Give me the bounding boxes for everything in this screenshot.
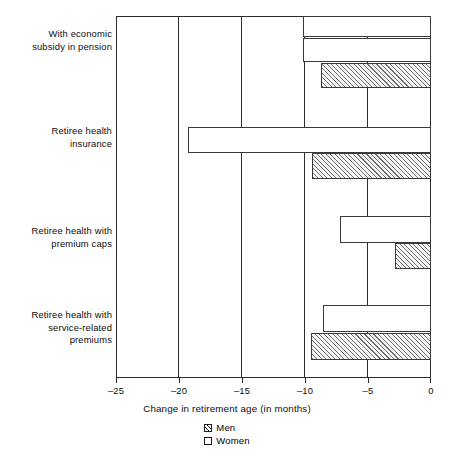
tick-label-minus20: –20 (159, 385, 199, 396)
bar-group0-women (303, 38, 431, 62)
bar-group3-women (323, 305, 431, 332)
tick-label-minus25: –25 (96, 385, 136, 396)
bar-group2-men (395, 243, 431, 269)
category-label-2: Retiree health with premium caps (2, 225, 112, 250)
legend-item-men: Men (204, 422, 249, 435)
bar-group1-men (312, 153, 431, 179)
bar-group1-women (188, 127, 431, 153)
gridline-minus15 (241, 16, 242, 378)
bar-chart: With economic subsidy in pension Retiree… (0, 0, 454, 468)
gridline-minus10 (304, 16, 305, 378)
legend: Men Women (0, 422, 454, 449)
legend-label-women: Women (216, 435, 249, 448)
tick-minus10 (305, 378, 306, 383)
tick-minus15 (242, 378, 243, 383)
bar-group0-men (321, 63, 431, 88)
tick-minus5 (368, 378, 369, 383)
legend-swatch-men-icon (204, 424, 212, 432)
tick-label-minus5: –5 (348, 385, 388, 396)
tick-label-minus10: –10 (285, 385, 325, 396)
category-label-1: Retiree health insurance (2, 125, 112, 150)
bar-group2-women (340, 216, 431, 243)
tick-minus25 (116, 378, 117, 383)
bar-group0-women-top (303, 16, 431, 37)
tick-label-minus15: –15 (222, 385, 262, 396)
category-label-3: Retiree health with service-related prem… (2, 309, 112, 347)
legend-item-women: Women (204, 435, 249, 448)
legend-label-men: Men (216, 422, 235, 435)
category-label-0: With economic subsidy in pension (2, 28, 112, 53)
bar-group3-men (311, 333, 431, 360)
tick-zero (430, 378, 431, 383)
tick-minus20 (179, 378, 180, 383)
x-axis-title: Change in retirement age (in months) (0, 403, 454, 414)
plot-area (116, 16, 431, 378)
gridline-minus20 (178, 16, 179, 378)
legend-swatch-women-icon (204, 437, 212, 445)
tick-label-zero: 0 (411, 385, 451, 396)
